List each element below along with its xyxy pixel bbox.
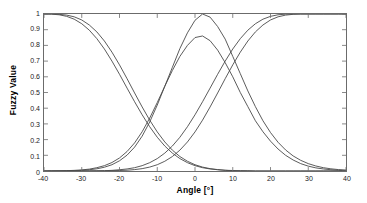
x-tick-label: -20 — [114, 175, 124, 182]
x-tick-label: -30 — [76, 175, 86, 182]
x-tick-label: 0 — [193, 175, 197, 182]
y-tick-label: 0.4 — [0, 105, 40, 112]
y-tick-label: 0.9 — [0, 25, 40, 32]
y-tick-label: 0.6 — [0, 73, 40, 80]
y-tick-label: 0.2 — [0, 137, 40, 144]
x-tick-label: 30 — [305, 175, 313, 182]
y-tick-label: 0.5 — [0, 89, 40, 96]
x-tick-label: 40 — [343, 175, 351, 182]
y-axis-tick-labels: 00.10.20.30.40.50.60.70.80.91 — [0, 0, 40, 203]
curve-3 — [44, 36, 346, 171]
x-tick-label: -40 — [38, 175, 48, 182]
plot-area — [43, 13, 347, 172]
y-tick-label: 0.7 — [0, 57, 40, 64]
y-tick-label: 1 — [0, 10, 40, 17]
y-tick-label: 0.8 — [0, 41, 40, 48]
fuzzy-membership-chart-screenshot: 00.10.20.30.40.50.60.70.80.91 -40-30-20-… — [0, 0, 367, 203]
x-tick-label: -10 — [152, 175, 162, 182]
x-axis-title: Angle [°] — [43, 185, 347, 195]
plot-curves-svg — [44, 14, 346, 171]
x-tick-label: 20 — [267, 175, 275, 182]
y-tick-label: 0.3 — [0, 121, 40, 128]
x-tick-label: 10 — [229, 175, 237, 182]
curve-group — [44, 14, 346, 171]
y-axis-title: Fuzzy Value — [8, 45, 18, 135]
y-tick-label: 0.1 — [0, 153, 40, 160]
